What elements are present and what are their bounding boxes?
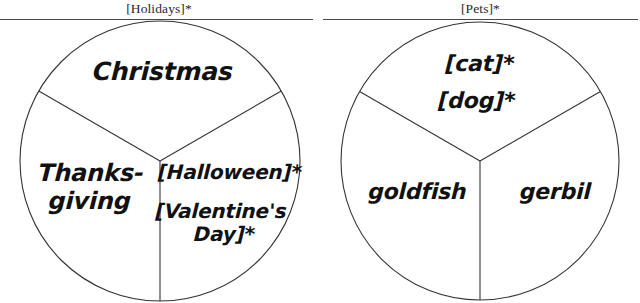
diagram-canvas: [Holidays]* [Pets]*: [0, 0, 640, 303]
sector-label-gerbil: gerbil: [497, 180, 613, 204]
sector-label-valentines-line1: [Valentine's: [155, 200, 296, 223]
sector-label-cat: [cat]*: [399, 52, 560, 76]
sector-label-thanksgiving-line1: Thanks-: [28, 160, 154, 188]
sector-label-christmas: Christmas: [77, 58, 248, 85]
sector-label-thanksgiving: Thanks- giving: [27, 160, 155, 215]
pie-holidays: [0, 0, 318, 303]
sector-label-valentines: [Valentine's Day]*: [154, 200, 296, 246]
sector-label-halloween: [Halloween]*: [157, 162, 306, 184]
sector-label-valentines-line2: Day]*: [154, 223, 295, 246]
pie-holidays-svg: [0, 0, 318, 303]
pie-pets: [321, 0, 640, 303]
sector-label-goldfish: goldfish: [354, 180, 480, 204]
sector-label-dog: [dog]*: [396, 89, 557, 113]
sector-label-thanksgiving-line2: giving: [27, 188, 153, 216]
panel-pets: [Pets]*: [321, 0, 640, 303]
pie-pets-svg: [321, 0, 640, 303]
panel-holidays: [Holidays]*: [0, 0, 318, 303]
pie-divider-upleft-holidays: [39, 91, 160, 161]
pie-divider-upright-holidays: [160, 91, 281, 161]
